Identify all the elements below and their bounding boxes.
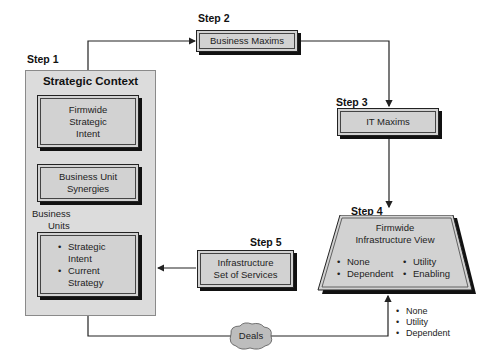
step-5-label: Step 5 — [250, 236, 282, 248]
it-maxims-label: IT Maxims — [366, 116, 410, 128]
step-3-label: Step 3 — [336, 96, 368, 108]
strategic-context-title: Strategic Context — [26, 75, 155, 87]
infra-item-dependent: Dependent — [335, 268, 393, 280]
business-unit-strategy-box: Strategic Intent Current Strategy — [37, 232, 139, 297]
business-units-label: Business Units — [32, 208, 71, 232]
infra-item-utility: Utility — [401, 256, 450, 268]
deals-label: Deals — [226, 330, 276, 342]
step-1-label: Step 1 — [27, 53, 59, 65]
infrastructure-services-box: Infrastructure Set of Services — [197, 250, 294, 288]
step-2-label: Step 2 — [198, 12, 230, 24]
business-unit-synergies-box: Business Unit Synergies — [37, 164, 139, 202]
unit-item-current-strategy: Current Strategy — [56, 265, 116, 289]
infrastructure-view-items-right: Utility Enabling — [401, 256, 450, 280]
firmwide-intent-line: Intent — [69, 128, 108, 140]
it-maxims-box: IT Maxims — [337, 108, 439, 136]
business-units-line: Business — [32, 208, 71, 220]
deal-output-utility: Utility — [394, 317, 450, 328]
infrastructure-services-line: Set of Services — [214, 269, 278, 281]
deal-output-dependent: Dependent — [394, 328, 450, 339]
firmwide-intent-line: Strategic — [69, 116, 108, 128]
business-maxims-box: Business Maxims — [196, 30, 298, 52]
deal-output-none: None — [394, 306, 450, 317]
synergies-line: Synergies — [59, 183, 117, 195]
deal-outputs-list: None Utility Dependent — [394, 306, 450, 339]
firmwide-strategic-intent-box: Firmwide Strategic Intent — [37, 95, 139, 148]
infrastructure-services-line: Infrastructure — [214, 257, 278, 269]
business-maxims-label: Business Maxims — [210, 35, 284, 47]
infrastructure-view-title-line: Infrastructure View — [340, 234, 450, 246]
infrastructure-view-title: Firmwide Infrastructure View — [340, 222, 450, 246]
firmwide-intent-line: Firmwide — [69, 104, 108, 116]
business-units-line: Units — [32, 220, 71, 232]
unit-item-strategic-intent: Strategic Intent — [56, 241, 116, 265]
infrastructure-view-title-line: Firmwide — [340, 222, 450, 234]
infra-item-enabling: Enabling — [401, 268, 450, 280]
infrastructure-view-items-left: None Dependent — [335, 256, 393, 280]
infra-item-none: None — [335, 256, 393, 268]
synergies-line: Business Unit — [59, 171, 117, 183]
